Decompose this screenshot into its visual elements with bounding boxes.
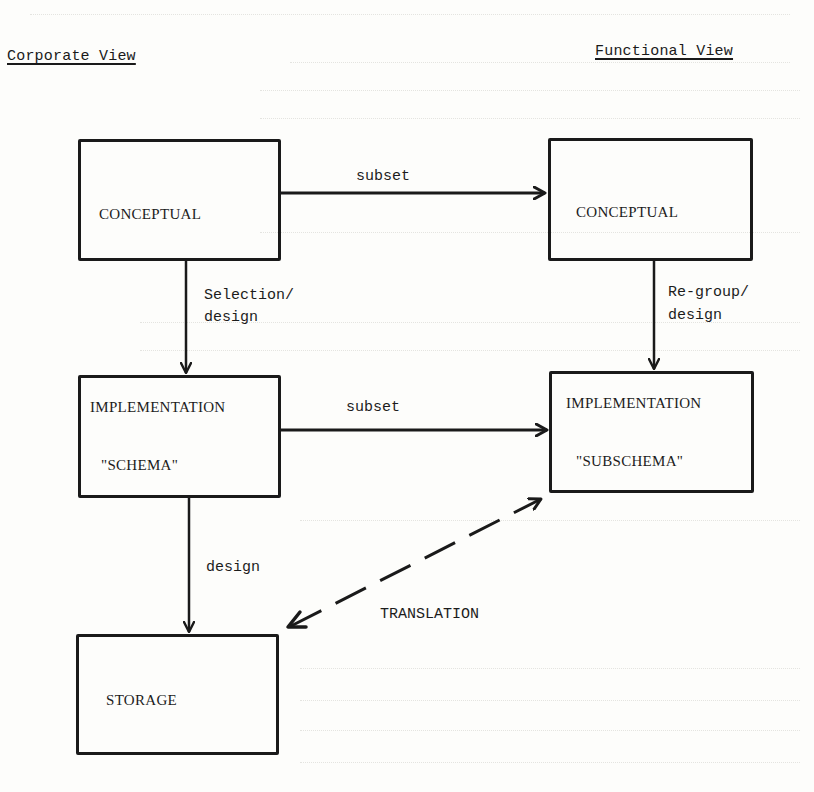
subschema-label: "SUBSCHEMA" <box>576 453 683 470</box>
functional-implementation-box: IMPLEMENTATION "SUBSCHEMA" <box>549 371 754 493</box>
translation-label: TRANSLATION <box>380 604 479 626</box>
functional-implementation-label: IMPLEMENTATION <box>566 395 702 412</box>
functional-conceptual-label: CONCEPTUAL <box>576 204 678 221</box>
functional-conceptual-box: CONCEPTUAL <box>548 138 753 261</box>
implementation-subset-label: subset <box>346 397 400 419</box>
corporate-conceptual-box: CONCEPTUAL <box>78 139 281 261</box>
corporate-conceptual-label: CONCEPTUAL <box>99 206 201 223</box>
storage-design-label: design <box>206 557 260 579</box>
conceptual-subset-label: subset <box>356 166 410 188</box>
storage-label: STORAGE <box>106 692 177 709</box>
regroup-design-label-line1: Re-group/ <box>668 282 749 304</box>
storage-box: STORAGE <box>76 634 279 755</box>
selection-design-label-line2: design <box>204 307 258 329</box>
corporate-implementation-label: IMPLEMENTATION <box>90 399 226 416</box>
regroup-design-label-line2: design <box>668 305 722 327</box>
corporate-implementation-box: IMPLEMENTATION "SCHEMA" <box>78 375 281 498</box>
schema-label: "SCHEMA" <box>101 457 178 474</box>
selection-design-label-line1: Selection/ <box>204 285 294 307</box>
